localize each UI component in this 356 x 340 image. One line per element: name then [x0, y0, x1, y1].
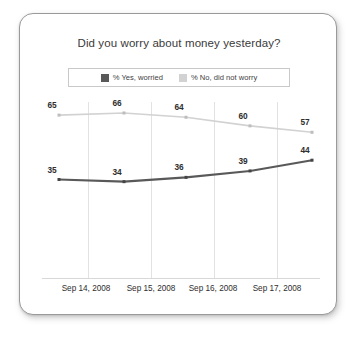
x-axis-label: Sep 14, 2008 [62, 284, 111, 293]
data-label: 57 [300, 117, 309, 127]
data-label: 36 [174, 162, 183, 172]
data-label: 44 [300, 145, 309, 155]
data-point-marker[interactable] [58, 114, 61, 117]
data-point-marker[interactable] [249, 124, 252, 127]
data-point-marker[interactable] [123, 111, 126, 114]
data-point-marker[interactable] [249, 169, 252, 172]
screenshot-root: Did you worry about money yesterday? % Y… [0, 0, 356, 340]
data-label: 65 [47, 100, 56, 110]
data-label: 60 [238, 111, 247, 121]
x-axis-label: Sep 16, 2008 [189, 284, 238, 293]
x-axis-label: Sep 17, 2008 [253, 284, 302, 293]
chart-card: Did you worry about money yesterday? % Y… [19, 13, 337, 315]
data-point-marker[interactable] [123, 180, 126, 183]
data-label: 39 [238, 156, 247, 166]
data-label: 64 [174, 102, 183, 112]
data-point-marker[interactable] [311, 131, 314, 134]
data-point-marker[interactable] [311, 159, 314, 162]
data-point-marker[interactable] [58, 178, 61, 181]
x-axis-label: Sep 15, 2008 [127, 284, 176, 293]
data-point-marker[interactable] [185, 176, 188, 179]
chart-plot-area: Did you worry about money yesterday? % Y… [20, 14, 338, 316]
data-label: 66 [112, 98, 121, 108]
data-label: 34 [112, 167, 121, 177]
data-point-marker[interactable] [185, 116, 188, 119]
data-label: 35 [47, 165, 56, 175]
